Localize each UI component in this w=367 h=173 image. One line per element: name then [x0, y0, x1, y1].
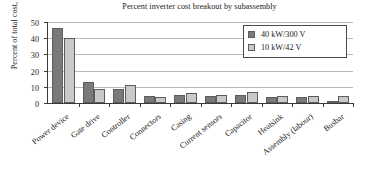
bar[interactable]: [52, 28, 63, 103]
bar[interactable]: [247, 92, 258, 104]
bar[interactable]: [186, 93, 197, 103]
bar[interactable]: [216, 95, 227, 103]
bar[interactable]: [113, 89, 124, 103]
y-tick-label: 20: [31, 67, 39, 76]
bar[interactable]: [64, 38, 75, 103]
y-tick-label: 30: [31, 51, 39, 60]
y-tick-label: 10: [31, 83, 39, 92]
x-tick-mark: [292, 103, 293, 107]
y-tick-mark: 0: [44, 103, 48, 104]
bar-group[interactable]: [83, 22, 106, 103]
bar-group[interactable]: [205, 22, 228, 103]
chart-title: Percent inverter cost breakout by subass…: [47, 2, 352, 11]
bar[interactable]: [296, 97, 307, 103]
y-axis-title: Percent of total cost, $: [10, 0, 19, 78]
bar[interactable]: [235, 95, 246, 103]
y-tick-label: 50: [31, 19, 39, 28]
bar[interactable]: [155, 97, 166, 103]
bar[interactable]: [277, 96, 288, 103]
legend-entry[interactable]: 40 kW/300 V: [248, 28, 343, 41]
bar[interactable]: [94, 89, 105, 103]
bar[interactable]: [308, 96, 319, 103]
x-tick-mark: [323, 103, 324, 107]
x-tick-mark: [109, 103, 110, 107]
bar[interactable]: [338, 96, 349, 103]
x-tick-mark: [262, 103, 263, 107]
bar[interactable]: [83, 82, 94, 103]
bar[interactable]: [205, 96, 216, 103]
bar[interactable]: [125, 85, 136, 103]
x-tick-mark: [353, 103, 354, 107]
bar[interactable]: [174, 95, 185, 103]
x-tick-mark: [231, 103, 232, 107]
legend-label: 10 kW/42 V: [261, 43, 301, 52]
bar-chart-figure: Percent inverter cost breakout by subass…: [0, 0, 367, 173]
bar[interactable]: [327, 101, 338, 103]
legend-entry[interactable]: 10 kW/42 V: [248, 41, 343, 54]
chart-legend: 40 kW/300 V10 kW/42 V: [243, 25, 347, 58]
y-tick-label: 40: [31, 35, 39, 44]
x-tick-mark: [201, 103, 202, 107]
bar[interactable]: [266, 97, 277, 103]
bar-group[interactable]: [113, 22, 136, 103]
x-tick-mark: [140, 103, 141, 107]
y-tick-label: 0: [35, 100, 39, 109]
bar-group[interactable]: [52, 22, 75, 103]
bar[interactable]: [144, 96, 155, 103]
legend-swatch: [248, 31, 255, 38]
legend-swatch: [248, 44, 255, 51]
x-tick-mark: [170, 103, 171, 107]
x-tick-mark: [79, 103, 80, 107]
bar-group[interactable]: [174, 22, 197, 103]
legend-label: 40 kW/300 V: [261, 30, 305, 39]
bar-group[interactable]: [144, 22, 167, 103]
